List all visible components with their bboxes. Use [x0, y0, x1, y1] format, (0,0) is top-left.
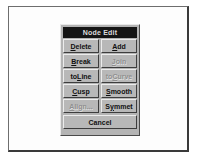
cancel-button-label: Cancel	[89, 119, 112, 126]
break-button-label: Break	[71, 58, 90, 65]
align-button-label: Align...	[69, 103, 92, 110]
cancel-row: Cancel	[63, 115, 137, 129]
dialog-title: Node Edit	[83, 27, 117, 38]
node-edit-dialog: Node Edit DeleteAddBreakJointoLinetoCurv…	[60, 24, 140, 136]
cancel-button[interactable]: Cancel	[63, 115, 137, 129]
button-row: BreakJoin	[63, 54, 137, 68]
join-button-label: Join	[112, 58, 126, 65]
symmet-button-label: Symmet	[105, 103, 132, 110]
delete-button[interactable]: Delete	[63, 39, 99, 53]
add-button-label: Add	[112, 43, 126, 50]
toline-button-label: toLine	[70, 73, 91, 80]
delete-button-label: Delete	[70, 43, 91, 50]
join-button: Join	[101, 54, 137, 68]
tocurve-button: toCurve	[101, 69, 137, 83]
button-row: DeleteAdd	[63, 39, 137, 53]
toline-button[interactable]: toLine	[63, 69, 99, 83]
smooth-button-label: Smooth	[106, 88, 132, 95]
button-row: Align...Symmet	[63, 99, 137, 113]
cusp-button-label: Cusp	[72, 88, 90, 95]
add-button[interactable]: Add	[101, 39, 137, 53]
align-button: Align...	[63, 99, 99, 113]
cusp-button[interactable]: Cusp	[63, 84, 99, 98]
symmet-button[interactable]: Symmet	[101, 99, 137, 113]
button-row: CuspSmooth	[63, 84, 137, 98]
page-surface: Node Edit DeleteAddBreakJointoLinetoCurv…	[9, 7, 187, 150]
button-row: toLinetoCurve	[63, 69, 137, 83]
tocurve-button-label: toCurve	[106, 73, 132, 80]
break-button[interactable]: Break	[63, 54, 99, 68]
smooth-button[interactable]: Smooth	[101, 84, 137, 98]
dialog-titlebar[interactable]: Node Edit	[63, 27, 137, 38]
page-frame: Node Edit DeleteAddBreakJointoLinetoCurv…	[8, 6, 189, 152]
button-grid: DeleteAddBreakJointoLinetoCurveCuspSmoot…	[63, 39, 137, 113]
